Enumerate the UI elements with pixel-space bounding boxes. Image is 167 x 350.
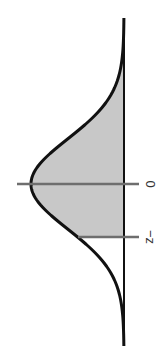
shaded-area (31, 18, 124, 237)
tick-label-neg-z: −z (143, 230, 158, 244)
tick-label-zero: 0 (143, 180, 158, 187)
normal-distribution-chart: 0 −z (0, 0, 167, 350)
